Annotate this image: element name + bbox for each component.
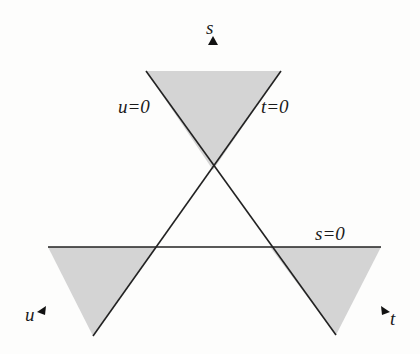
- t-axis-arrow-icon: [381, 306, 390, 315]
- t-axis-label: t: [390, 309, 395, 328]
- u-zero-label: u=0: [118, 97, 150, 116]
- u-axis-arrow-icon: [37, 306, 46, 315]
- diagram-canvas: s u=0 t=0 s=0 u t: [0, 0, 420, 354]
- u-axis-label: u: [25, 305, 35, 324]
- s-axis-label: s: [206, 18, 213, 37]
- t-zero-label: t=0: [261, 97, 289, 116]
- s-channel-region: [146, 71, 281, 170]
- mandelstam-diagram: [0, 0, 420, 354]
- s-zero-label: s=0: [315, 224, 345, 243]
- t-channel-region: [270, 247, 381, 335]
